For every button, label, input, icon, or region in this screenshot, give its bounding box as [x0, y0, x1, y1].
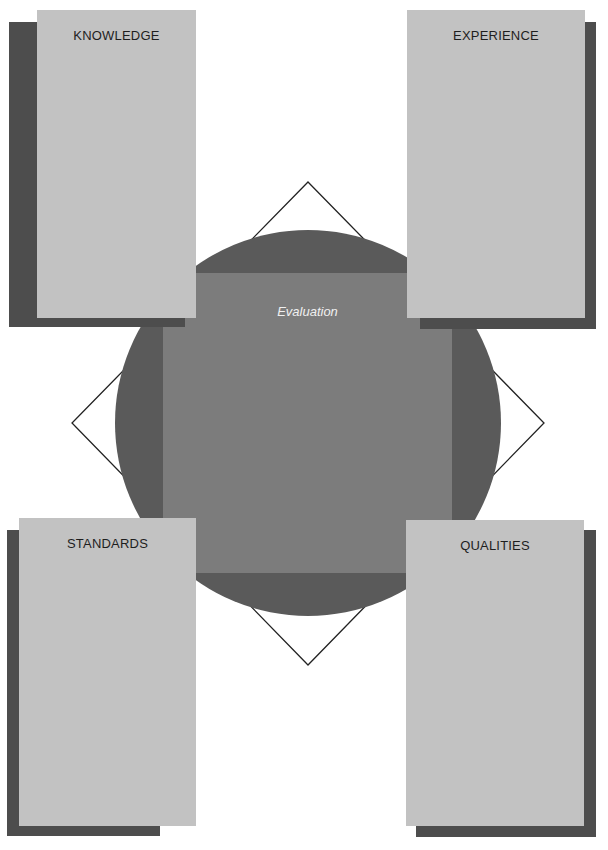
knowledge-card: KNOWLEDGE [37, 10, 196, 318]
standards-card: STANDARDS [19, 518, 196, 826]
experience-title: EXPERIENCE [407, 28, 585, 43]
qualities-card: QUALITIES [406, 520, 584, 826]
knowledge-title: KNOWLEDGE [37, 28, 196, 43]
standards-title: STANDARDS [19, 536, 196, 551]
experience-card: EXPERIENCE [407, 10, 585, 318]
evaluation-label: Evaluation [163, 304, 452, 319]
qualities-title: QUALITIES [406, 538, 584, 553]
